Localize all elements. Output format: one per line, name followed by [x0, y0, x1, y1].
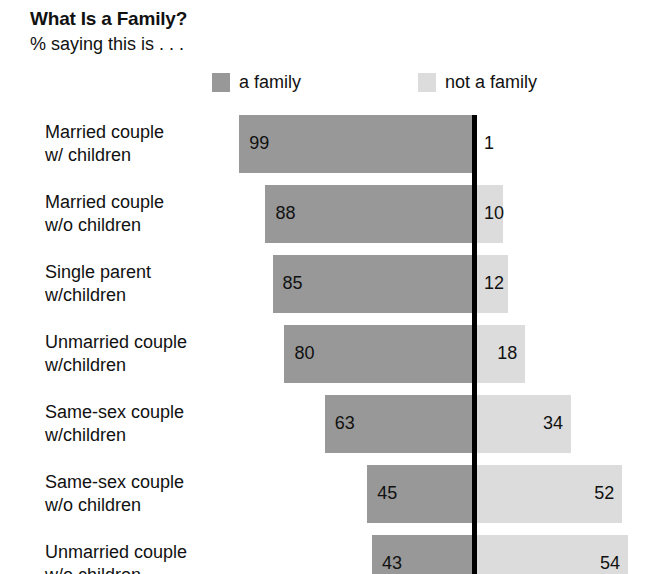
bar-row: Unmarried couplew/o children4354: [0, 535, 646, 574]
value-label-a-family: 45: [377, 483, 397, 504]
value-label-not-a-family: 1: [484, 133, 494, 154]
bar-a-family: [265, 185, 474, 243]
bar-row: Unmarried couplew/children8018: [0, 325, 646, 383]
bar-row: Single parentw/children8512: [0, 255, 646, 313]
category-label: Same-sex couplew/o children: [45, 471, 184, 517]
category-label: Single parentw/children: [45, 261, 151, 307]
value-label-not-a-family: 34: [543, 413, 563, 434]
category-label: Married couplew/ children: [45, 121, 164, 167]
value-label-a-family: 80: [294, 343, 314, 364]
value-label-a-family: 63: [335, 413, 355, 434]
category-label-line2: w/o children: [45, 214, 164, 237]
category-label-line2: w/children: [45, 284, 151, 307]
value-label-not-a-family: 12: [484, 273, 504, 294]
category-label: Unmarried couplew/o children: [45, 541, 187, 574]
category-label-line1: Same-sex couple: [45, 401, 184, 424]
category-label-line1: Unmarried couple: [45, 331, 187, 354]
center-axis-line: [472, 115, 477, 574]
category-label-line2: w/children: [45, 354, 187, 377]
bar-row: Same-sex couplew/children6334: [0, 395, 646, 453]
category-label: Same-sex couplew/children: [45, 401, 184, 447]
category-label: Married couplew/o children: [45, 191, 164, 237]
bar-a-family: [239, 115, 474, 173]
category-label-line1: Married couple: [45, 121, 164, 144]
value-label-a-family: 85: [283, 273, 303, 294]
category-label-line2: w/o children: [45, 564, 187, 574]
category-label: Unmarried couplew/children: [45, 331, 187, 377]
category-label-line2: w/o children: [45, 494, 184, 517]
value-label-a-family: 99: [249, 133, 269, 154]
category-label-line1: Married couple: [45, 191, 164, 214]
value-label-a-family: 43: [382, 553, 402, 574]
value-label-not-a-family: 54: [600, 553, 620, 574]
bar-row: Same-sex couplew/o children4552: [0, 465, 646, 523]
plot-area: Married couplew/ children991Married coup…: [0, 0, 646, 574]
value-label-a-family: 88: [275, 203, 295, 224]
category-label-line2: w/children: [45, 424, 184, 447]
bar-row: Married couplew/o children8810: [0, 185, 646, 243]
category-label-line2: w/ children: [45, 144, 164, 167]
category-label-line1: Single parent: [45, 261, 151, 284]
value-label-not-a-family: 52: [594, 483, 614, 504]
category-label-line1: Unmarried couple: [45, 541, 187, 564]
bar-a-family: [273, 255, 474, 313]
value-label-not-a-family: 10: [484, 203, 504, 224]
bar-row: Married couplew/ children991: [0, 115, 646, 173]
value-label-not-a-family: 18: [497, 343, 517, 364]
chart-page: What Is a Family? % saying this is . . .…: [0, 0, 646, 574]
category-label-line1: Same-sex couple: [45, 471, 184, 494]
